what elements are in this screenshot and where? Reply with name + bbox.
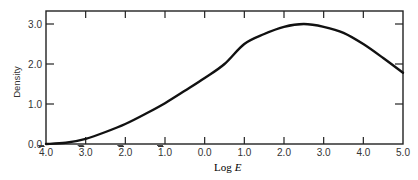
x-tick-label: 0.0 — [198, 147, 212, 158]
x-tick-label: 4.0 — [356, 147, 370, 158]
x-axis-label-var: E — [234, 161, 242, 173]
axis-ticks — [46, 11, 403, 144]
x-tick-label: 3.0 — [317, 147, 331, 158]
y-tick-labels: 0.01.02.03.0 — [28, 19, 42, 150]
x-axis-label-log: Log — [214, 161, 232, 173]
x-tick-label-rest: .0 — [45, 147, 54, 158]
x-tick-label: 2.0 — [118, 147, 132, 158]
x-tick-label: 2.0 — [277, 147, 291, 158]
y-tick-label: 1.0 — [28, 99, 42, 110]
x-tick-label-rest: .0 — [124, 147, 133, 158]
x-tick-label: 1.0 — [237, 147, 251, 158]
density-chart: 4.03.02.01.00.01.02.03.04.05.0 0.01.02.0… — [0, 0, 418, 180]
plot-frame — [46, 11, 403, 144]
y-axis-label: Density — [11, 66, 22, 98]
x-tick-label: 1.0 — [158, 147, 172, 158]
x-tick-label-rest: .0 — [84, 147, 93, 158]
y-tick-label: 0.0 — [28, 139, 42, 150]
density-curve — [46, 24, 403, 144]
x-tick-labels: 4.03.02.01.00.01.02.03.04.05.0 — [38, 146, 410, 159]
x-tick-label: 5.0 — [396, 147, 410, 158]
x-tick-label-rest: .0 — [164, 147, 173, 158]
x-axis-label: LogE — [214, 161, 242, 173]
x-tick-label: 3.0 — [79, 147, 93, 158]
y-tick-label: 2.0 — [28, 59, 42, 70]
y-tick-label: 3.0 — [28, 19, 42, 30]
